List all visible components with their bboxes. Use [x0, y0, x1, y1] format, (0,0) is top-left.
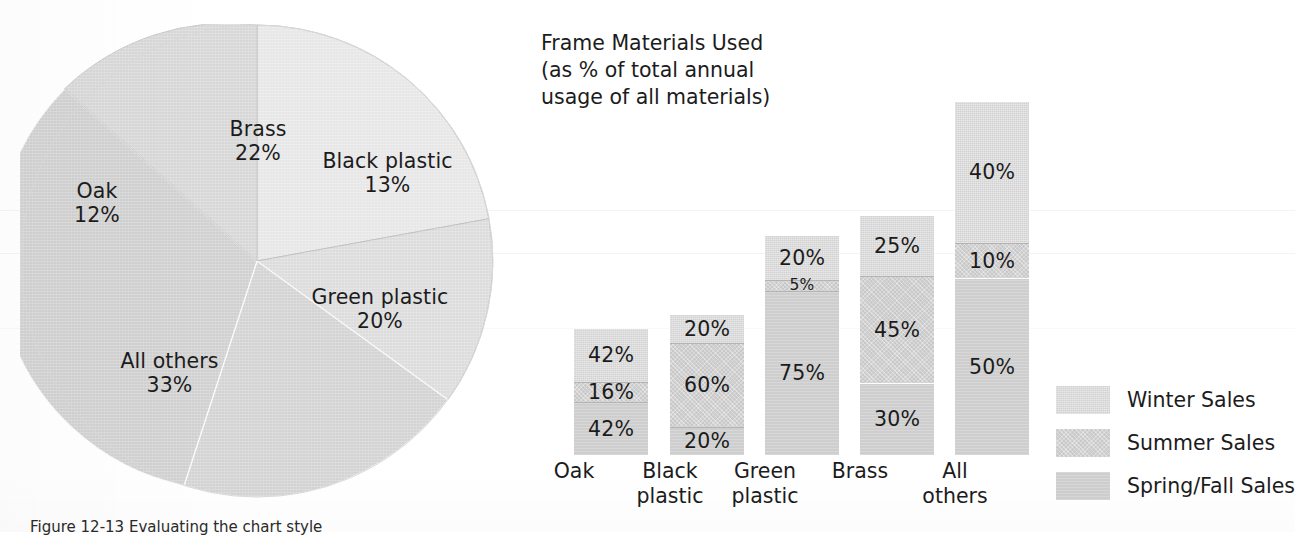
bar-oak-summer[interactable]: 16% [574, 382, 648, 402]
bar-all-others-summer-value: 10% [969, 251, 1015, 272]
bar-green-plastic-summer[interactable]: 5% [765, 280, 839, 291]
legend-item-spring[interactable]: Spring/Fall Sales [1056, 464, 1295, 507]
legend-swatch-spring-icon [1056, 472, 1110, 500]
pie-label-oak-name: Oak [77, 179, 118, 203]
bar-all-others-winter-value: 40% [969, 162, 1015, 183]
bar-green-plastic-spring-value: 75% [779, 363, 825, 384]
bar-brass-winter[interactable]: 25% [860, 216, 934, 276]
bar-black-plastic-winter[interactable]: 20% [670, 315, 744, 343]
bar-all-others-winter[interactable]: 40% [955, 102, 1029, 243]
pie-label-green-plastic-value: 20% [280, 309, 480, 333]
pie-chart: Brass 22% Black plastic 13% Oak 12% Gree… [20, 24, 494, 498]
bar-green-plastic-summer-value: 5% [790, 278, 815, 294]
bar-oak-summer-value: 16% [588, 382, 634, 403]
pie-label-brass-name: Brass [230, 117, 287, 141]
legend-label-summer: Summer Sales [1127, 431, 1275, 455]
bar-brass[interactable]: 25% 45% 30% [860, 216, 934, 455]
bar-brass-winter-value: 25% [874, 236, 920, 257]
bar-brass-spring[interactable]: 30% [860, 383, 934, 455]
bar-black-plastic-spring-value: 20% [684, 431, 730, 452]
bar-brass-summer[interactable]: 45% [860, 276, 934, 383]
legend-label-winter: Winter Sales [1127, 388, 1256, 412]
bar-green-plastic-winter-value: 20% [779, 248, 825, 269]
bar-brass-summer-value: 45% [874, 320, 920, 341]
x-label-all-others: All others [907, 459, 1003, 508]
legend-swatch-summer-icon [1056, 429, 1110, 457]
pie-label-oak: Oak 12% [42, 179, 152, 227]
bar-black-plastic-winter-value: 20% [684, 319, 730, 340]
bar-brass-spring-value: 30% [874, 409, 920, 430]
pie-chart-svg [20, 24, 494, 498]
pie-label-green-plastic-name: Green plastic [312, 285, 449, 309]
pie-label-black-plastic-name: Black plastic [322, 149, 452, 173]
pie-label-black-plastic-value: 13% [295, 173, 480, 197]
x-label-black-plastic: Black plastic [622, 459, 718, 508]
bar-green-plastic-spring[interactable]: 75% [765, 291, 839, 455]
bar-black-plastic[interactable]: 20% 60% 20% [670, 315, 744, 455]
bar-oak-winter-value: 42% [588, 345, 634, 366]
bar-black-plastic-spring[interactable]: 20% [670, 427, 744, 455]
x-label-brass: Brass [812, 459, 908, 484]
x-label-green-plastic: Green plastic [717, 459, 813, 508]
x-label-oak: Oak [526, 459, 622, 484]
pie-label-all-others-name: All others [120, 349, 218, 373]
figure-caption: Figure 12-13 Evaluating the chart style [30, 518, 322, 536]
pie-label-black-plastic: Black plastic 13% [295, 149, 480, 197]
bar-oak-spring-value: 42% [588, 419, 634, 440]
legend-label-spring: Spring/Fall Sales [1127, 474, 1295, 498]
legend-item-winter[interactable]: Winter Sales [1056, 378, 1295, 421]
legend-swatch-winter-icon [1056, 386, 1110, 414]
bar-oak[interactable]: 42% 16% 42% [574, 329, 648, 455]
bar-oak-spring[interactable]: 42% [574, 402, 648, 455]
bar-all-others-spring-value: 50% [969, 357, 1015, 378]
bar-all-others[interactable]: 40% 10% 50% [955, 102, 1029, 455]
bar-black-plastic-summer[interactable]: 60% [670, 343, 744, 427]
pie-label-oak-value: 12% [42, 203, 152, 227]
bar-green-plastic[interactable]: 20% 5% 75% [765, 236, 839, 455]
pie-label-all-others-value: 33% [82, 373, 257, 397]
bar-all-others-summer[interactable]: 10% [955, 243, 1029, 278]
legend-item-summer[interactable]: Summer Sales [1056, 421, 1295, 464]
stacked-bar-chart: 42% 16% 42% 20% 60% 20% 20% [560, 90, 1050, 455]
bar-all-others-spring[interactable]: 50% [955, 278, 1029, 455]
bar-oak-winter[interactable]: 42% [574, 329, 648, 382]
legend: Winter Sales Summer Sales Spring/Fall Sa… [1056, 378, 1295, 507]
pie-label-green-plastic: Green plastic 20% [280, 285, 480, 333]
bar-green-plastic-winter[interactable]: 20% [765, 236, 839, 280]
bar-black-plastic-summer-value: 60% [684, 375, 730, 396]
pie-label-all-others: All others 33% [82, 349, 257, 397]
